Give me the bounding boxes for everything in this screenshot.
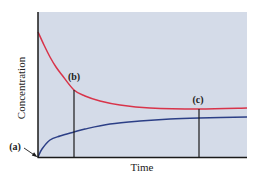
annotation-label-b: (b): [68, 71, 80, 83]
concentration-time-chart: (b) (c) (a) Concentration Time: [0, 0, 262, 186]
x-axis-title: Time: [131, 161, 154, 173]
annotation-label-c: (c): [192, 94, 203, 106]
arrow-a-head-icon: [32, 152, 38, 157]
y-axis-title: Concentration: [15, 56, 27, 119]
annotation-label-a: (a): [9, 141, 21, 153]
